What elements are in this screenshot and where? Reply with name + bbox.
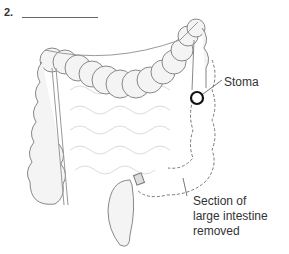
label-line: large intestine <box>193 209 268 224</box>
removed-section-label: Section of large intestine removed <box>193 194 268 239</box>
stoma-label: Stoma <box>224 75 259 90</box>
rectum <box>108 180 134 246</box>
label-line: Section of <box>193 194 268 209</box>
ascending-colon <box>27 62 65 204</box>
label-line: removed <box>193 224 268 239</box>
small-intestine <box>70 86 170 174</box>
transverse-colon <box>40 19 205 98</box>
stoma-marker <box>191 92 203 104</box>
